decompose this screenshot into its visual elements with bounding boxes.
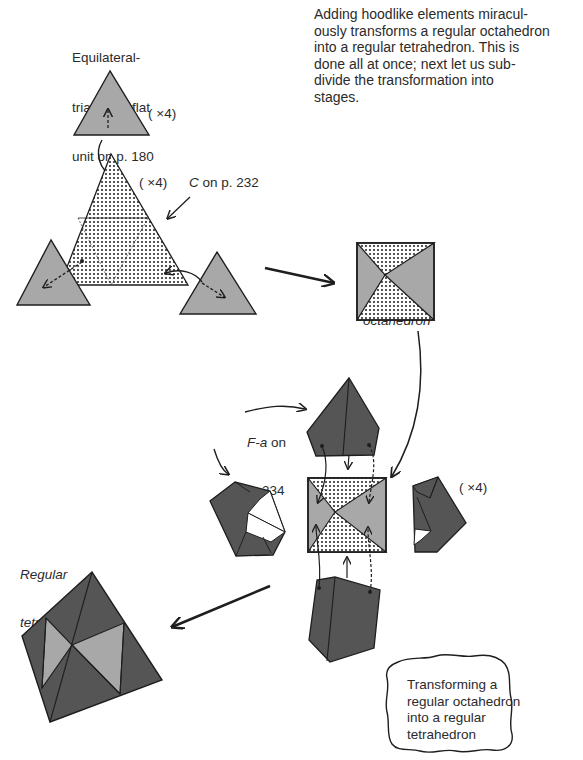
caption-line: into a regular	[407, 710, 520, 727]
caption-line: Transforming a	[407, 677, 520, 694]
tetrahedron-solid	[22, 572, 162, 722]
octahedron-square	[357, 243, 434, 320]
flat-unit-triangle-right	[180, 252, 256, 314]
c-ref-arrow	[168, 197, 190, 218]
insert-arrow	[348, 455, 349, 468]
caption-cloud-text: Transforming a regular octahedron into a…	[407, 677, 520, 743]
caption-line: regular octahedron	[407, 694, 520, 711]
fa-arrow-left	[214, 449, 228, 474]
hood-unit-left	[210, 482, 285, 556]
fa-arrow-top	[245, 406, 305, 412]
c-unit-dotted-triangle	[60, 154, 188, 285]
flat-unit-triangle-top	[74, 71, 149, 135]
hood-unit-bottom	[309, 577, 380, 662]
arrow-to-octahedron	[265, 268, 334, 283]
arrow-to-tetrahedron	[172, 586, 270, 627]
caption-line: tetrahedron	[407, 727, 520, 744]
arrow-to-assembly	[392, 331, 421, 476]
hood-unit-right	[413, 477, 466, 552]
hood-unit-top	[307, 378, 379, 456]
diagram-artwork	[0, 0, 583, 760]
assembly-square	[308, 478, 386, 552]
